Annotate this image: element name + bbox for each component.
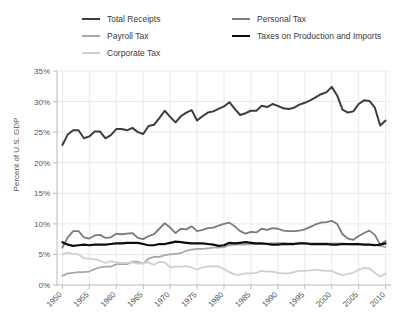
plot-area: 0%5%10%15%20%25%30%35%195019551960196519… xyxy=(0,0,408,322)
y-tick-label: 5% xyxy=(38,250,50,259)
x-tick-label: 2000 xyxy=(314,290,333,309)
x-tick-label: 1980 xyxy=(206,290,225,309)
y-tick-label: 0% xyxy=(38,281,50,290)
y-tick-label: 20% xyxy=(34,159,50,168)
x-tick-label: 1955 xyxy=(72,290,91,309)
y-tick-label: 25% xyxy=(34,128,50,137)
x-tick-label: 1985 xyxy=(233,290,252,309)
x-tick-label: 1950 xyxy=(45,290,64,309)
x-tick-label: 1995 xyxy=(287,290,306,309)
y-tick-label: 10% xyxy=(34,220,50,229)
x-tick-label: 1960 xyxy=(99,290,118,309)
x-tick-label: 1990 xyxy=(260,290,279,309)
x-tick-label: 1970 xyxy=(153,290,172,309)
chart-container: Total Receipts Personal Tax Payroll Tax … xyxy=(0,0,408,322)
y-tick-label: 35% xyxy=(34,67,50,76)
y-tick-label: 30% xyxy=(34,98,50,107)
x-tick-label: 2010 xyxy=(368,290,387,309)
y-tick-label: 15% xyxy=(34,189,50,198)
x-tick-label: 2005 xyxy=(341,290,360,309)
x-tick-label: 1965 xyxy=(126,290,145,309)
plot-svg: 0%5%10%15%20%25%30%35%195019551960196519… xyxy=(0,0,408,322)
x-tick-label: 1975 xyxy=(180,290,199,309)
